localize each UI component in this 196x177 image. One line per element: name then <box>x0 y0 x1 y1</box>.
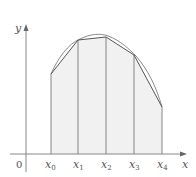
tick-labels: x0 x1 x2 x3 x4 <box>45 158 168 172</box>
tick-label-x2: x2 <box>101 158 112 172</box>
origin-label: 0 <box>16 159 22 170</box>
tick-label-x1: x1 <box>73 158 84 172</box>
x-axis-label: x <box>182 158 189 171</box>
tick-label-x0: x0 <box>45 158 56 172</box>
tick-label-x3: x3 <box>129 158 140 172</box>
tick-label-x4: x4 <box>157 158 168 172</box>
y-axis-arrow-icon <box>24 24 29 31</box>
trapezoid-fill <box>51 37 162 154</box>
y-axis-label: y <box>14 22 22 35</box>
trapezoid-rule-diagram: y x 0 x0 x1 x2 x3 x4 <box>0 0 196 177</box>
x-axis-arrow-icon <box>180 152 187 157</box>
